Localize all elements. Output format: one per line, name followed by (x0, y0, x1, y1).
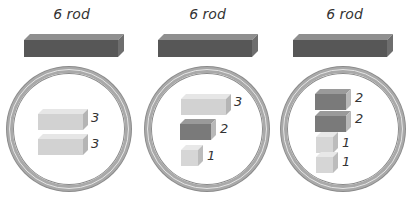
six-rod (293, 34, 393, 58)
three-rod (38, 134, 88, 156)
one-cube (181, 145, 203, 167)
piece-value: 2 (220, 121, 228, 136)
six-rod (158, 34, 258, 58)
panel-2: 6 rod 3 2 1 (139, 0, 278, 205)
rod-label: 6 rod (138, 6, 277, 22)
two-rod (315, 89, 351, 111)
three-rod (181, 94, 231, 116)
piece-value: 2 (355, 111, 363, 126)
panel-1: 6 rod 3 3 (0, 0, 139, 205)
one-cube (316, 152, 338, 174)
piece-value: 3 (91, 110, 99, 125)
rod-label: 6 rod (275, 6, 414, 22)
piece-value: 1 (342, 135, 350, 150)
one-cube (316, 132, 338, 154)
piece-value: 1 (207, 148, 215, 163)
piece-value: 3 (234, 94, 242, 109)
piece-value: 2 (355, 90, 363, 105)
two-rod (315, 111, 351, 133)
rod-label: 6 rod (2, 6, 141, 22)
piece-value: 1 (342, 154, 350, 169)
panel-3: 6 rod 2 2 1 (278, 0, 417, 205)
piece-value: 3 (91, 136, 99, 151)
three-rod (38, 109, 88, 131)
six-rod (24, 34, 124, 58)
two-rod (180, 119, 216, 141)
